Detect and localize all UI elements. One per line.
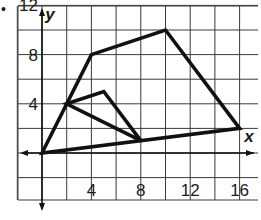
coordinate-grid: 4812164812xy • xyxy=(0,0,261,220)
y-tick-label: 12 xyxy=(19,0,38,15)
x-axis-arrow-icon xyxy=(246,150,254,156)
inner-triangle xyxy=(67,92,141,141)
x-tick-label: 8 xyxy=(136,181,145,200)
y-tick-label: 4 xyxy=(29,95,38,114)
y-axis-arrow-icon xyxy=(39,8,45,16)
y-axis-arrow-down-icon xyxy=(39,203,45,211)
problem-marker: • xyxy=(1,1,6,17)
x-tick-label: 12 xyxy=(181,181,200,200)
x-tick-label: 4 xyxy=(87,181,96,200)
x-axis-label: x xyxy=(243,127,255,146)
y-axis-label: y xyxy=(44,5,56,24)
y-tick-label: 8 xyxy=(29,46,38,65)
x-tick-label: 16 xyxy=(230,181,249,200)
x-axis-arrow-left-icon xyxy=(20,150,28,156)
